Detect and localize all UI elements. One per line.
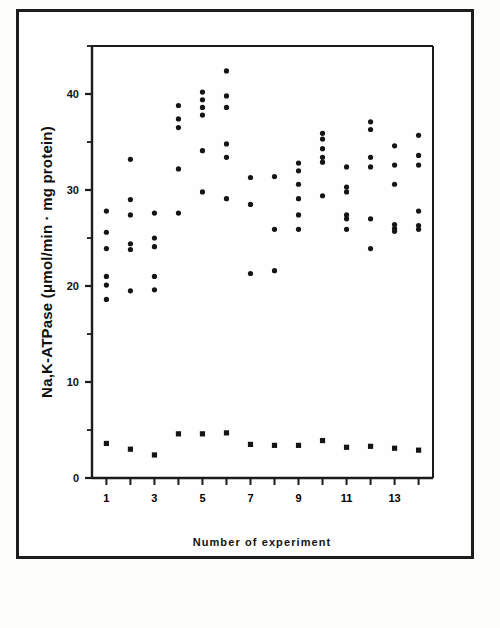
data-series-ouabain-insensitive	[104, 430, 421, 457]
data-point-circle	[320, 193, 325, 198]
data-point-square	[344, 445, 349, 450]
data-point-circle	[416, 227, 421, 232]
data-point-circle	[392, 143, 397, 148]
data-point-circle	[344, 185, 349, 190]
y-axis-tick-labels: 010203040	[67, 88, 79, 484]
data-point-circle	[200, 189, 205, 194]
data-point-circle	[320, 137, 325, 142]
data-point-circle	[176, 166, 181, 171]
data-point-circle	[224, 196, 229, 201]
plot-frame	[92, 46, 433, 478]
data-point-circle	[176, 210, 181, 215]
data-point-circle	[344, 164, 349, 169]
data-point-circle	[152, 210, 157, 215]
x-tick-label-7: 7	[247, 492, 253, 504]
data-point-circle	[416, 133, 421, 138]
x-axis: 135791113	[92, 478, 433, 504]
data-point-circle	[368, 119, 373, 124]
data-point-square	[416, 448, 421, 453]
x-axis-tick-labels: 135791113	[103, 492, 400, 504]
data-point-circle	[320, 160, 325, 165]
data-point-square	[272, 443, 277, 448]
data-point-circle	[320, 131, 325, 136]
figure-root: 010203040 135791113 Number of experiment…	[0, 0, 500, 628]
data-point-circle	[368, 155, 373, 160]
y-tick-label-10: 10	[67, 376, 79, 388]
scatter-plot-canvas: 010203040 135791113 Number of experiment…	[0, 0, 500, 628]
data-point-circle	[416, 209, 421, 214]
data-point-circle	[128, 288, 133, 293]
data-point-square	[152, 452, 157, 457]
data-point-circle	[224, 155, 229, 160]
y-tick-label-30: 30	[67, 184, 79, 196]
data-point-circle	[176, 125, 181, 130]
data-point-square	[176, 431, 181, 436]
data-point-square	[224, 430, 229, 435]
data-point-circle	[296, 168, 301, 173]
data-point-circle	[320, 146, 325, 151]
data-point-circle	[344, 189, 349, 194]
x-tick-label-9: 9	[295, 492, 301, 504]
data-point-circle	[224, 105, 229, 110]
x-tick-label-13: 13	[388, 492, 400, 504]
data-point-circle	[368, 246, 373, 251]
x-tick-label-3: 3	[151, 492, 157, 504]
data-point-circle	[128, 197, 133, 202]
data-point-circle	[128, 157, 133, 162]
data-point-circle	[368, 164, 373, 169]
data-point-circle	[104, 274, 109, 279]
data-point-circle	[248, 202, 253, 207]
data-point-circle	[176, 103, 181, 108]
data-point-circle	[248, 175, 253, 180]
data-point-circle	[200, 97, 205, 102]
data-point-square	[392, 446, 397, 451]
data-point-circle	[152, 244, 157, 249]
data-point-circle	[200, 89, 205, 94]
y-tick-label-20: 20	[67, 280, 79, 292]
data-point-circle	[104, 297, 109, 302]
data-point-circle	[272, 268, 277, 273]
data-point-circle	[104, 230, 109, 235]
data-point-circle	[392, 229, 397, 234]
data-point-circle	[104, 246, 109, 251]
x-tick-label-11: 11	[341, 492, 353, 504]
data-point-circle	[344, 227, 349, 232]
data-point-circle	[224, 68, 229, 73]
data-point-circle	[368, 216, 373, 221]
data-point-square	[296, 443, 301, 448]
data-point-circle	[272, 174, 277, 179]
data-point-circle	[224, 141, 229, 146]
data-point-circle	[200, 105, 205, 110]
y-tick-label-40: 40	[67, 88, 79, 100]
data-point-circle	[296, 182, 301, 187]
data-point-square	[128, 447, 133, 452]
data-point-circle	[152, 287, 157, 292]
data-point-circle	[272, 227, 277, 232]
y-axis-title: Na,K-ATPase (μmol/min · mg protein)	[38, 126, 55, 398]
data-point-circle	[392, 182, 397, 187]
data-point-square	[248, 442, 253, 447]
data-point-circle	[152, 235, 157, 240]
y-axis: 010203040	[67, 46, 92, 484]
data-point-square	[368, 444, 373, 449]
data-point-circle	[296, 227, 301, 232]
data-point-circle	[200, 148, 205, 153]
x-tick-label-5: 5	[199, 492, 205, 504]
data-point-circle	[128, 247, 133, 252]
data-point-circle	[128, 212, 133, 217]
data-point-circle	[128, 241, 133, 246]
data-point-circle	[104, 282, 109, 287]
data-series-atpase-activity	[104, 68, 421, 302]
data-point-circle	[104, 209, 109, 214]
data-point-square	[320, 438, 325, 443]
data-point-circle	[416, 162, 421, 167]
data-point-circle	[416, 153, 421, 158]
data-point-circle	[248, 271, 253, 276]
data-point-circle	[296, 196, 301, 201]
data-point-circle	[152, 274, 157, 279]
data-point-circle	[224, 93, 229, 98]
data-point-circle	[200, 113, 205, 118]
data-point-circle	[392, 162, 397, 167]
data-point-square	[104, 441, 109, 446]
data-point-circle	[320, 155, 325, 160]
